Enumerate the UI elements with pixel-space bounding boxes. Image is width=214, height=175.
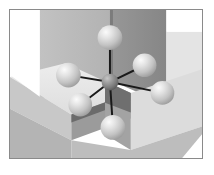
ligand-bottom-sphere: [101, 115, 126, 140]
figure-frame: [9, 9, 203, 159]
top-right-white-wedge: [166, 10, 202, 32]
ligand-upper-right-sphere: [133, 53, 157, 77]
figure-root: [0, 0, 214, 175]
octahedral-structure-illustration: [10, 10, 202, 158]
ligand-right-sphere: [151, 81, 175, 105]
central-atom-sphere: [102, 74, 119, 91]
central-atom-group: [102, 74, 119, 91]
ligand-lower-left-sphere: [68, 93, 92, 117]
ligand-left-sphere: [56, 63, 81, 88]
ligand-top-sphere: [98, 25, 123, 50]
